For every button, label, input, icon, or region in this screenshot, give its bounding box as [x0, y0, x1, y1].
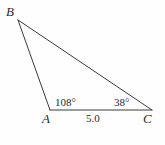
- vertex-label-c: C: [143, 112, 152, 125]
- angle-label-at-c: 38°: [114, 97, 129, 108]
- side-BA-line: [18, 20, 50, 110]
- vertex-label-a: A: [42, 112, 50, 125]
- vertex-label-b: B: [6, 5, 14, 18]
- angle-label-at-a: 108°: [55, 97, 76, 108]
- side-length-label-ac: 5.0: [86, 113, 100, 124]
- side-BC-line: [18, 20, 152, 110]
- triangle-drawing: [0, 0, 165, 145]
- triangle-figure: B A C 108° 38° 5.0: [0, 0, 165, 145]
